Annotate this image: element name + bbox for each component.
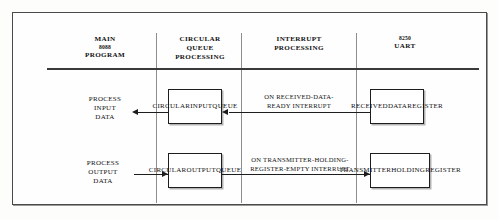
- connector-input-queue-to-program: [138, 112, 168, 113]
- column-heading-uart: 8250 UART: [359, 35, 451, 51]
- column-heading-line-3: PROCESSING: [161, 53, 239, 62]
- column-heading-line-2: UART: [359, 42, 451, 51]
- box-circular-input-queue: CIRCULARINPUTQUEUE: [168, 89, 222, 124]
- arrowhead-to-circular-input-queue: [222, 109, 228, 115]
- label-process-input-data: PROCESSINPUTDATA: [75, 95, 135, 122]
- column-heading-line-1: MAIN: [59, 35, 151, 44]
- column-divider-1: [156, 33, 157, 203]
- connector-received-data-register-to-input-queue: [229, 112, 370, 113]
- header-underline: [47, 68, 479, 70]
- label-received-data-ready-interrupt: ON RECEIVED-DATA-READY INTERRUPT: [239, 93, 359, 110]
- label-process-output-data: PROCESSOUTPUTDATA: [71, 159, 135, 186]
- box-circular-output-queue: CIRCULAROUTPUTQUEUE: [168, 153, 222, 188]
- box-received-data-register: RECEIVEDDATAREGISTER: [370, 89, 424, 124]
- column-heading-line-3: PROGRAM: [59, 51, 151, 60]
- column-divider-3: [356, 33, 357, 203]
- column-heading-line-2: PROCESSING: [245, 44, 353, 53]
- column-divider-2: [241, 33, 242, 203]
- column-heading-line-1: 8250: [359, 35, 451, 42]
- column-heading-line-2: 8088: [59, 44, 151, 51]
- column-heading-line-1: CIRCULAR: [161, 35, 239, 44]
- column-heading-line-2: QUEUE: [161, 44, 239, 53]
- column-heading-queue-processing: CIRCULAR QUEUE PROCESSING: [161, 35, 239, 62]
- arrowhead-to-process-input-data: [132, 109, 138, 115]
- column-heading-main-program: MAIN 8088 PROGRAM: [59, 35, 151, 60]
- diagram-frame: MAIN 8088 PROGRAM CIRCULAR QUEUE PROCESS…: [12, 12, 487, 205]
- box-transmitter-holding-register: TRANSMITTERHOLDINGREGISTER: [370, 153, 430, 188]
- column-heading-line-1: INTERRUPT: [245, 35, 353, 44]
- diagram-figure: MAIN 8088 PROGRAM CIRCULAR QUEUE PROCESS…: [0, 0, 499, 220]
- column-heading-interrupt-processing: INTERRUPT PROCESSING: [245, 35, 353, 53]
